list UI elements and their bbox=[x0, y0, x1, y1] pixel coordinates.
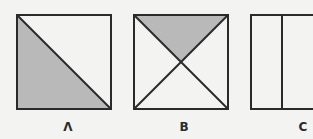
panel-b bbox=[134, 15, 228, 109]
panel-c-label: C bbox=[293, 120, 313, 134]
panel-b-label: B bbox=[174, 120, 194, 134]
panel-a-label: Λ bbox=[58, 120, 78, 134]
figure-canvas bbox=[0, 0, 313, 139]
panel-a bbox=[17, 15, 111, 109]
panel-b-shaded-triangle bbox=[134, 15, 228, 62]
panel-c bbox=[251, 15, 313, 109]
